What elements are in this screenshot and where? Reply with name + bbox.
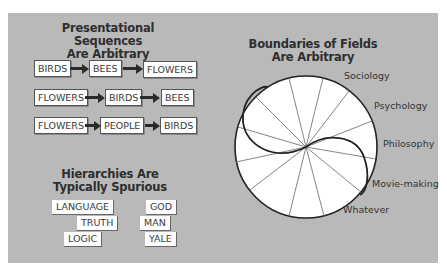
field-label-psychology: Psychology [374, 100, 427, 111]
field-label-sociology: Sociology [344, 70, 390, 81]
field-label-whatever: Whatever [343, 204, 389, 215]
fields-circle-diagram [0, 0, 447, 271]
field-label-philosophy: Philosophy [383, 138, 434, 149]
field-label-movie-making: Movie-making [372, 178, 439, 189]
